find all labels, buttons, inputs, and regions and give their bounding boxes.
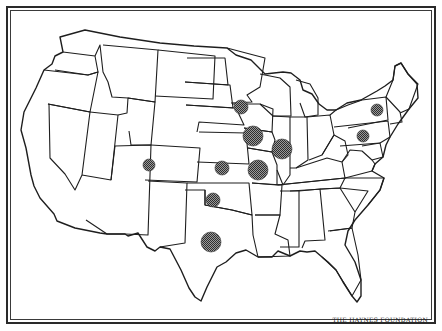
credit-label: THE HAYNES FOUNDATION <box>333 316 429 323</box>
marker-kansas <box>215 161 229 175</box>
marker-minnesota <box>234 100 248 114</box>
marker-pennsylvania <box>357 130 369 142</box>
marker-colorado <box>143 159 155 171</box>
marker-missouri <box>248 160 268 180</box>
marker-new-york <box>371 104 383 116</box>
marker-oklahoma <box>206 193 220 207</box>
marker-texas <box>201 232 221 252</box>
us-map <box>0 0 442 331</box>
marker-illinois <box>272 139 292 159</box>
marker-iowa <box>243 126 263 146</box>
